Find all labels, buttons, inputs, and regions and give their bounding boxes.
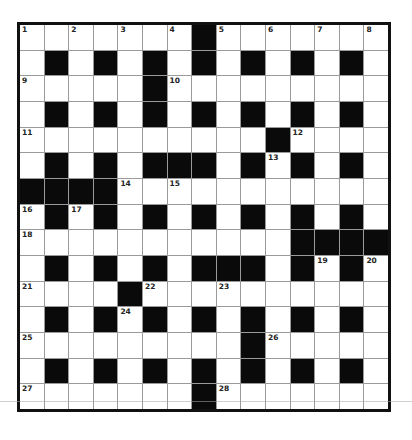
- answer-cell[interactable]: [143, 333, 167, 358]
- answer-cell[interactable]: [20, 153, 44, 178]
- answer-cell[interactable]: [45, 25, 69, 50]
- answer-cell[interactable]: [315, 333, 339, 358]
- answer-cell[interactable]: [315, 205, 339, 230]
- answer-cell[interactable]: 26: [266, 333, 290, 358]
- answer-cell[interactable]: [20, 102, 44, 127]
- answer-cell[interactable]: [217, 76, 241, 101]
- answer-cell[interactable]: [69, 153, 93, 178]
- answer-cell[interactable]: [143, 25, 167, 50]
- answer-cell[interactable]: [69, 307, 93, 332]
- answer-cell[interactable]: [168, 128, 192, 153]
- answer-cell[interactable]: [266, 51, 290, 76]
- answer-cell[interactable]: 3: [118, 25, 142, 50]
- answer-cell[interactable]: [118, 384, 142, 409]
- answer-cell[interactable]: [118, 256, 142, 281]
- answer-cell[interactable]: [192, 128, 216, 153]
- answer-cell[interactable]: [364, 102, 388, 127]
- answer-cell[interactable]: [168, 205, 192, 230]
- answer-cell[interactable]: 25: [20, 333, 44, 358]
- answer-cell[interactable]: [118, 230, 142, 255]
- answer-cell[interactable]: [364, 51, 388, 76]
- answer-cell[interactable]: [69, 256, 93, 281]
- answer-cell[interactable]: [94, 333, 118, 358]
- answer-cell[interactable]: [315, 359, 339, 384]
- answer-cell[interactable]: [241, 282, 265, 307]
- answer-cell[interactable]: [94, 384, 118, 409]
- answer-cell[interactable]: 11: [20, 128, 44, 153]
- answer-cell[interactable]: [69, 230, 93, 255]
- answer-cell[interactable]: [340, 76, 364, 101]
- answer-cell[interactable]: [94, 25, 118, 50]
- answer-cell[interactable]: [364, 359, 388, 384]
- answer-cell[interactable]: [364, 179, 388, 204]
- answer-cell[interactable]: [94, 230, 118, 255]
- answer-cell[interactable]: [340, 333, 364, 358]
- answer-cell[interactable]: [69, 384, 93, 409]
- answer-cell[interactable]: [168, 256, 192, 281]
- answer-cell[interactable]: [168, 384, 192, 409]
- answer-cell[interactable]: [291, 384, 315, 409]
- answer-cell[interactable]: [69, 333, 93, 358]
- answer-cell[interactable]: [340, 282, 364, 307]
- answer-cell[interactable]: 23: [217, 282, 241, 307]
- answer-cell[interactable]: [241, 76, 265, 101]
- answer-cell[interactable]: 8: [364, 25, 388, 50]
- answer-cell[interactable]: [118, 128, 142, 153]
- answer-cell[interactable]: [69, 128, 93, 153]
- answer-cell[interactable]: 16: [20, 205, 44, 230]
- answer-cell[interactable]: [20, 359, 44, 384]
- answer-cell[interactable]: [291, 282, 315, 307]
- answer-cell[interactable]: [94, 282, 118, 307]
- answer-cell[interactable]: [266, 384, 290, 409]
- answer-cell[interactable]: [168, 102, 192, 127]
- answer-cell[interactable]: [69, 282, 93, 307]
- answer-cell[interactable]: 18: [20, 230, 44, 255]
- answer-cell[interactable]: 1: [20, 25, 44, 50]
- answer-cell[interactable]: [45, 333, 69, 358]
- answer-cell[interactable]: [168, 282, 192, 307]
- answer-cell[interactable]: 4: [168, 25, 192, 50]
- answer-cell[interactable]: 5: [217, 25, 241, 50]
- answer-cell[interactable]: [266, 230, 290, 255]
- answer-cell[interactable]: [315, 76, 339, 101]
- answer-cell[interactable]: [118, 359, 142, 384]
- answer-cell[interactable]: 24: [118, 307, 142, 332]
- answer-cell[interactable]: [340, 128, 364, 153]
- answer-cell[interactable]: [45, 282, 69, 307]
- answer-cell[interactable]: [364, 384, 388, 409]
- answer-cell[interactable]: [143, 230, 167, 255]
- answer-cell[interactable]: [192, 230, 216, 255]
- answer-cell[interactable]: [168, 51, 192, 76]
- answer-cell[interactable]: [192, 179, 216, 204]
- answer-cell[interactable]: [364, 128, 388, 153]
- answer-cell[interactable]: [340, 179, 364, 204]
- answer-cell[interactable]: [118, 51, 142, 76]
- answer-cell[interactable]: [315, 153, 339, 178]
- answer-cell[interactable]: [143, 179, 167, 204]
- answer-cell[interactable]: [315, 102, 339, 127]
- answer-cell[interactable]: [315, 282, 339, 307]
- answer-cell[interactable]: [143, 128, 167, 153]
- answer-cell[interactable]: 14: [118, 179, 142, 204]
- answer-cell[interactable]: [315, 51, 339, 76]
- answer-cell[interactable]: 6: [266, 25, 290, 50]
- answer-cell[interactable]: [94, 128, 118, 153]
- answer-cell[interactable]: 21: [20, 282, 44, 307]
- answer-cell[interactable]: [315, 307, 339, 332]
- answer-cell[interactable]: [118, 76, 142, 101]
- answer-cell[interactable]: 10: [168, 76, 192, 101]
- answer-cell[interactable]: 9: [20, 76, 44, 101]
- answer-cell[interactable]: [266, 205, 290, 230]
- answer-cell[interactable]: [217, 333, 241, 358]
- answer-cell[interactable]: [266, 76, 290, 101]
- answer-cell[interactable]: [20, 307, 44, 332]
- answer-cell[interactable]: [217, 359, 241, 384]
- answer-cell[interactable]: [217, 307, 241, 332]
- answer-cell[interactable]: [118, 333, 142, 358]
- answer-cell[interactable]: [266, 307, 290, 332]
- answer-cell[interactable]: [118, 102, 142, 127]
- answer-cell[interactable]: 22: [143, 282, 167, 307]
- answer-cell[interactable]: [364, 76, 388, 101]
- answer-cell[interactable]: 20: [364, 256, 388, 281]
- answer-cell[interactable]: [20, 256, 44, 281]
